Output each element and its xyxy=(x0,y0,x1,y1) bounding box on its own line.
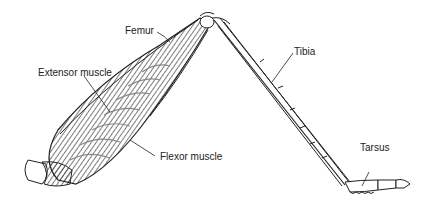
tarsus-label: Tarsus xyxy=(360,143,389,153)
tibia-label: Tibia xyxy=(294,47,315,57)
tarsus-segment xyxy=(345,180,410,194)
flexor-muscle-label: Flexor muscle xyxy=(160,152,222,162)
extensor-muscle-label: Extensor muscle xyxy=(38,68,112,78)
femur-label: Femur xyxy=(125,26,154,36)
leg-illustration xyxy=(0,0,430,204)
leg-diagram: Femur Extensor muscle Flexor muscle Tibi… xyxy=(0,0,430,204)
tibia-segment xyxy=(214,18,352,186)
